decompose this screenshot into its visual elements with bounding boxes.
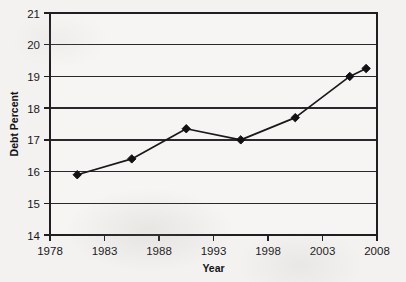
y-tick-label: 15 bbox=[27, 198, 40, 210]
x-tick-label: 1983 bbox=[92, 245, 118, 257]
x-axis-ticks bbox=[50, 235, 377, 241]
x-tick-label: 2003 bbox=[310, 245, 336, 257]
y-tick-label: 14 bbox=[27, 230, 40, 242]
x-tick-label: 1998 bbox=[255, 245, 281, 257]
y-tick-labels: 21 20 19 18 17 16 15 14 bbox=[27, 8, 40, 242]
x-tick-label: 1988 bbox=[146, 245, 172, 257]
y-tick-label: 16 bbox=[27, 166, 40, 178]
y-axis-ticks bbox=[44, 13, 50, 235]
x-tick-label: 1993 bbox=[201, 245, 227, 257]
y-tick-label: 18 bbox=[27, 103, 40, 115]
plot-background bbox=[50, 13, 377, 235]
y-tick-label: 17 bbox=[27, 134, 40, 146]
x-axis-title: Year bbox=[202, 262, 224, 274]
x-tick-labels: 1978 1983 1988 1993 1998 2003 2008 bbox=[37, 245, 390, 257]
y-tick-label: 19 bbox=[27, 71, 40, 83]
x-tick-label: 2008 bbox=[364, 245, 390, 257]
y-tick-label: 21 bbox=[27, 8, 40, 20]
y-axis-title: Debt Percent bbox=[8, 91, 20, 156]
x-tick-label: 1978 bbox=[37, 245, 63, 257]
line-chart-canvas: 21 20 19 18 17 16 15 14 1978 1983 1988 1… bbox=[0, 0, 406, 282]
y-tick-label: 20 bbox=[27, 39, 40, 51]
chart-figure: 21 20 19 18 17 16 15 14 1978 1983 1988 1… bbox=[0, 0, 406, 282]
